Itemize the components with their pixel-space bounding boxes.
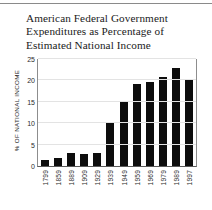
bar-slot: 1799: [39, 59, 51, 166]
chart-title-line-3: Estimated National Income: [26, 39, 190, 52]
bar-slot: 1889: [65, 59, 77, 166]
bar-slot: 1969: [144, 59, 156, 166]
y-axis-tick-label: 15: [27, 98, 35, 105]
bar-slot: 1997: [183, 59, 195, 166]
chart-figure: American Federal Government Expenditures…: [0, 0, 212, 210]
chart-title-line-1: American Federal Government: [26, 12, 190, 25]
y-axis-tick-label: 5: [31, 141, 35, 148]
y-axis-tick-label: 25: [27, 56, 35, 63]
bar-slot: 1939: [104, 59, 116, 166]
header-divider: [0, 3, 212, 4]
x-axis-tick-label: 1959: [133, 170, 140, 185]
x-axis-tick-label: 1929: [94, 170, 101, 185]
x-axis-tick-label: 1939: [107, 170, 114, 185]
plot-area: 1799185918891909192919391949195919691979…: [37, 59, 197, 167]
x-axis-tick-label: 1949: [120, 170, 127, 185]
bar: [172, 68, 180, 166]
bar-slot: 1909: [78, 59, 90, 166]
bar-slot: 1949: [118, 59, 130, 166]
bar-slot: 1979: [157, 59, 169, 166]
bar: [67, 153, 75, 166]
x-axis-tick-label: 1859: [54, 170, 61, 185]
gridline: [38, 144, 196, 145]
gridline: [38, 79, 196, 80]
y-axis-tick-label: 10: [27, 120, 35, 127]
x-axis-tick-label: 1997: [186, 170, 193, 185]
bar: [41, 160, 49, 166]
plot-area-wrapper: % OF NATIONAL INCOME 1799185918891909192…: [0, 55, 212, 210]
bar: [80, 154, 88, 166]
chart-title: American Federal Government Expenditures…: [26, 12, 190, 52]
y-axis-tick-label: 20: [27, 77, 35, 84]
x-axis-tick-label: 1969: [146, 170, 153, 185]
bar-slot: 1859: [52, 59, 64, 166]
y-axis-title: % OF NATIONAL INCOME: [13, 57, 20, 165]
y-axis-tick-label: 0: [31, 163, 35, 170]
bar: [54, 158, 62, 166]
x-axis-tick-label: 1799: [41, 170, 48, 185]
gridline: [38, 58, 196, 59]
bar: [133, 84, 141, 166]
bar-series: 1799185918891909192919391949195919691979…: [38, 59, 196, 166]
chart-title-line-2: Expenditures as Percentage of: [26, 25, 190, 38]
bar-slot: 1959: [131, 59, 143, 166]
x-axis-tick-label: 1909: [81, 170, 88, 185]
x-axis-tick-label: 1889: [67, 170, 74, 185]
bar-slot: 1989: [170, 59, 182, 166]
bar-slot: 1929: [91, 59, 103, 166]
x-axis-tick-label: 1989: [173, 170, 180, 185]
bar: [93, 153, 101, 166]
gridline: [38, 101, 196, 102]
x-axis-tick-label: 1979: [159, 170, 166, 185]
bar: [120, 101, 128, 166]
gridline: [38, 122, 196, 123]
bar: [146, 82, 154, 166]
